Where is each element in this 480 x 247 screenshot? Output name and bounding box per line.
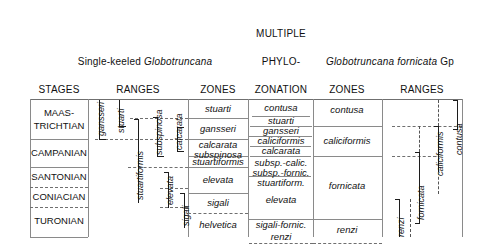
range-dash-fornicata-upper <box>419 126 420 152</box>
zone-right-div-caliciformis-fornicata <box>313 156 382 157</box>
header-fornicata-genus-species: Globotruncana fornicata <box>326 56 437 67</box>
zone-left-gansseri: gansseri <box>200 124 236 134</box>
phylo-contusa: contusa <box>264 103 297 113</box>
stage-boundary-coniacian-turonian <box>30 207 88 208</box>
range-tick-renzi-top <box>395 199 400 200</box>
zone-right-renzi: renzi <box>337 225 358 235</box>
stage-turonian: TURONIAN <box>34 216 84 226</box>
header-stages: STAGES <box>38 85 79 96</box>
range-label-stuarti: stuarti <box>116 108 126 133</box>
biostratigraphic-chart: STAGES Single-keeled Globotruncana RANGE… <box>0 0 480 247</box>
range-tick-elevata-top <box>164 172 169 173</box>
stage-coniacian: CONIACIAN <box>33 192 86 202</box>
range-tick-calcarata-base <box>177 151 184 152</box>
range-label-sigali: sigali <box>181 205 191 226</box>
phylo-renzi: renzi <box>271 232 292 242</box>
phylo-sigali-fornic: sigali-fornic. <box>256 220 307 230</box>
header-phylo-line3: ZONATION <box>255 85 308 96</box>
header-zones-right: ZONES <box>329 85 364 96</box>
range-label-renzi: renzi <box>396 217 406 237</box>
zone-right-div-renzi-base <box>313 243 382 244</box>
header-zones-left: ZONES <box>200 85 235 96</box>
header-single-keeled-prefix: Single-keeled <box>78 56 144 67</box>
stage-maastrichtian-line2: TRICHTIAN <box>34 121 85 131</box>
ranges-right-guide-2 <box>392 156 436 157</box>
range-tick-contusa-top <box>453 100 458 101</box>
phylo-right-border <box>313 99 314 237</box>
stage-boundary-maastrichtian-campanian <box>30 139 88 140</box>
range-label-contusa: contusa <box>454 123 464 155</box>
stages-right-border <box>88 99 89 237</box>
header-fornicata-suffix: Gp <box>437 56 454 67</box>
range-dash-caliciformis-lower <box>438 172 439 194</box>
zone-left-div-stuarti-gansseri <box>188 118 248 119</box>
zone-left-div-stuartiformis-elevata <box>188 167 248 168</box>
phylo-stuartiform: stuartiform. <box>257 178 305 188</box>
stage-maastrichtian-line1: MAAS- <box>44 108 74 118</box>
stages-left-border <box>30 99 31 237</box>
range-tick-gansseri-base <box>99 139 106 140</box>
zone-left-div-elevata-sigali <box>188 193 248 194</box>
zone-left-elevata: elevata <box>203 175 234 185</box>
header-group-single-keeled: Single-keeled Globotruncana <box>78 57 212 68</box>
range-tick-caliciformis-top <box>434 126 439 127</box>
range-dash-renzi-extension <box>410 199 411 237</box>
zone-right-div-fornicata-renzi <box>313 219 382 220</box>
phylo-elevata: elevata <box>266 195 297 205</box>
zone-right-contusa: contusa <box>330 105 363 115</box>
stages-bottom-border <box>30 237 88 238</box>
zone-left-stuarti: stuarti <box>205 104 231 114</box>
range-label-fornicata: fornicata <box>416 185 426 220</box>
range-label-stuartiformis: stuartiformis <box>135 151 145 200</box>
header-ranges-left: RANGES <box>116 85 159 96</box>
range-tick-stuartiformis-top <box>134 119 139 120</box>
zone-left-div-sigali-helvetica <box>188 213 248 214</box>
range-dash-caliciformis-upper <box>438 100 439 126</box>
zone-right-caliciformis: caliciformis <box>324 136 371 146</box>
header-phylo-line2: PHYLO- <box>262 57 300 68</box>
stage-boundary-campanian-santonian <box>30 167 88 168</box>
range-label-gansseri: gansseri <box>96 102 106 136</box>
stage-santonian: SANTONIAN <box>31 172 86 182</box>
zone-right-div-contusa-caliciformis <box>313 126 382 127</box>
zones-left-right-border <box>248 99 249 237</box>
header-underline <box>30 99 462 100</box>
zone-left-sigali: sigali <box>207 198 229 208</box>
zone-right-fornicata: fornicata <box>329 181 365 191</box>
zone-left-helvetica: helvetica <box>199 220 237 230</box>
header-group-fornicata: Globotruncana fornicata Gp <box>326 57 454 68</box>
ranges-right-right-border <box>462 99 463 237</box>
header-phylo-line1: MULTIPLE <box>256 29 306 40</box>
range-tick-fornicata-top <box>415 152 420 153</box>
range-tick-fornicata-base <box>415 223 420 224</box>
range-tick-sigali-top <box>180 193 185 194</box>
header-single-keeled-genus: Globotruncana <box>144 56 212 67</box>
zone-left-stuartiformis: stuartiformis <box>192 157 244 167</box>
header-ranges-right: RANGES <box>400 85 443 96</box>
range-label-elevata: elevata <box>165 176 175 205</box>
stage-campanian: CAMPANIAN <box>31 148 87 158</box>
ranges-right-guide-1 <box>392 126 462 127</box>
zones-right-right-border <box>382 99 383 237</box>
phylo-calcarata: calcarata <box>262 146 301 156</box>
range-label-calcarata: calcarata <box>174 113 184 150</box>
range-label-subspinosa: subspinosa <box>154 109 164 155</box>
range-tick-subspinosa-base <box>157 156 164 157</box>
stage-boundary-santonian-coniacian <box>30 187 88 188</box>
phylo-div-renzi-base <box>249 243 313 244</box>
range-label-caliciformis: caliciformis <box>435 131 445 176</box>
